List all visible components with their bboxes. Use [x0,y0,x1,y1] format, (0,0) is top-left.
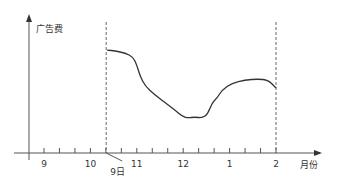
annotations: 9日 [106,22,276,177]
x-tick-label: 11 [131,159,142,169]
x-tick-label: 2 [273,159,279,169]
marker-leader-line [106,153,122,161]
series-group [107,50,276,118]
x-tick-labels: 910111212 [41,159,279,169]
marker-label: 9日 [110,167,125,177]
series-line [107,50,276,118]
x-axis-title: 月份 [300,159,318,170]
y-axis-title: 广告费 [36,23,63,34]
x-axis-arrow-icon [314,150,322,156]
x-tick-label: 12 [177,159,188,169]
x-tick-label: 10 [85,159,97,169]
y-axis-arrow-icon [26,14,32,22]
x-tick-label: 9 [41,159,47,169]
x-ticks [44,148,276,153]
line-chart: 广告费 月份 910111212 9日 [0,0,338,188]
x-tick-label: 1 [227,159,233,169]
